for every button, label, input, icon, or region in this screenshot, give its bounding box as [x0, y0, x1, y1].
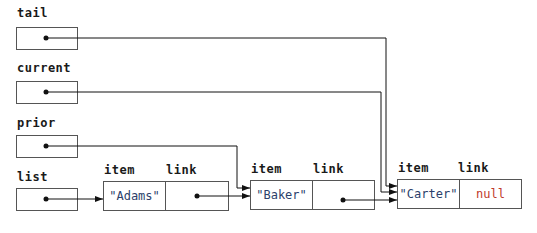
baker-link-dot-icon [341, 198, 346, 203]
adams-link-dot-icon [195, 194, 200, 199]
prior-pointer [46, 146, 250, 188]
current-dot-icon [44, 90, 49, 95]
current-pointer [46, 92, 397, 192]
tail-dot-icon [44, 36, 49, 41]
pointer-arrows [0, 0, 537, 233]
prior-dot-icon [44, 144, 49, 149]
tail-pointer [46, 38, 397, 186]
list-dot-icon [44, 197, 49, 202]
